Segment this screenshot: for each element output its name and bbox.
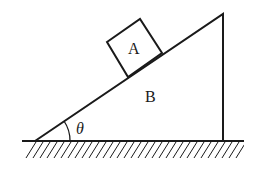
angle-label: θ [76,120,84,137]
block-label: A [128,40,140,57]
wedge-label: B [145,88,156,105]
angle-arc [64,121,70,141]
ground-hatching [26,142,246,158]
inclined-plane-diagram: A B θ [0,0,268,169]
